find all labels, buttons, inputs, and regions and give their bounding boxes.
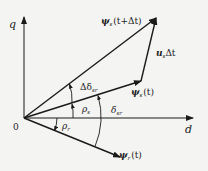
q-axis-label: q [9,18,16,31]
psi-r-label: ψr(t) [119,150,142,161]
d-axis-label: d [185,123,192,136]
delta-sr-label: δsr [111,105,122,116]
psi-r-vector [24,118,120,157]
rho-s-label: ρs [81,104,90,115]
psi-s-next-label: ψs(t+Δt) [101,16,142,27]
stator-rotor-flux-vector-diagram: q d 0 ψs(t+Δt) ψs(t) ψr(t) usΔt Δδsr ρs … [0,0,208,171]
delta-sr-arc [95,96,101,147]
rho-r-label: ρr [61,121,70,132]
rho-r-arc [55,118,58,131]
delta-delta-sr-label: Δδsr [80,82,98,93]
psi-s-label: ψs(t) [131,87,154,98]
delta-delta-sr-arc [70,84,73,103]
origin-label: 0 [13,122,19,132]
us-dt-label: usΔt [156,48,176,59]
rho-s-arc [72,104,73,118]
psi-s-next-vector [24,18,156,118]
